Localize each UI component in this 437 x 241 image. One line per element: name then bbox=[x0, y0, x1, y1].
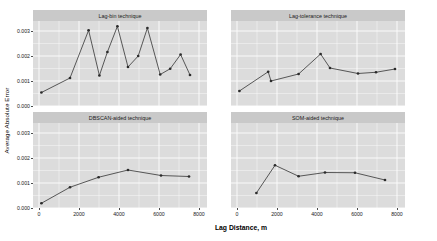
x-axis-tick-label: 8000 bbox=[385, 211, 409, 217]
x-axis-tick-mark bbox=[159, 208, 160, 210]
x-axis-tick-label: 6000 bbox=[147, 211, 171, 217]
x-axis-tick-label: 2000 bbox=[67, 211, 91, 217]
chart-figure: Average Absolute Error Lag Distance, m 0… bbox=[0, 0, 437, 241]
x-axis-tick-label: 0 bbox=[27, 211, 51, 217]
facet-plot-area bbox=[231, 123, 405, 208]
facet-plot-area bbox=[231, 21, 405, 106]
facet-strip-label: Lag-tolerance technique bbox=[231, 10, 405, 21]
facet-panel: Lag-bin technique bbox=[33, 10, 207, 106]
x-axis-title: Lag Distance, m bbox=[45, 224, 437, 236]
x-axis-tick-label: 2000 bbox=[265, 211, 289, 217]
x-axis-tick-mark bbox=[277, 208, 278, 210]
x-axis-tick-mark bbox=[39, 208, 40, 210]
facet-strip-label: DBSCAN-aided technique bbox=[33, 112, 207, 123]
facet-strip-label: Lag-bin technique bbox=[33, 10, 207, 21]
facet-strip-label: SOM-aided technique bbox=[231, 112, 405, 123]
facet-plot-area bbox=[33, 21, 207, 106]
x-axis-tick-label: 6000 bbox=[345, 211, 369, 217]
x-axis-tick-mark bbox=[237, 208, 238, 210]
x-axis-tick-label: 8000 bbox=[187, 211, 211, 217]
facet-panel: DBSCAN-aided technique bbox=[33, 112, 207, 208]
y-axis-title-label: Average Absolute Error bbox=[3, 87, 10, 153]
x-axis-tick-mark bbox=[357, 208, 358, 210]
x-axis-tick-mark bbox=[317, 208, 318, 210]
x-axis-tick-mark bbox=[119, 208, 120, 210]
y-axis-tick-label: 0.003 bbox=[4, 130, 30, 136]
x-axis-tick-mark bbox=[79, 208, 80, 210]
y-axis-tick-label: 0.001 bbox=[4, 180, 30, 186]
y-axis-tick-label: 0.001 bbox=[4, 78, 30, 84]
facet-plot-area bbox=[33, 123, 207, 208]
x-axis-tick-label: 4000 bbox=[107, 211, 131, 217]
x-axis-tick-mark bbox=[199, 208, 200, 210]
y-axis-tick-label: 0.000 bbox=[4, 103, 30, 109]
facet-panel: Lag-tolerance technique bbox=[231, 10, 405, 106]
y-axis-tick-label: 0.003 bbox=[4, 28, 30, 34]
y-axis-tick-mark bbox=[31, 208, 33, 209]
y-axis-tick-label: 0.002 bbox=[4, 53, 30, 59]
x-axis-tick-mark bbox=[397, 208, 398, 210]
y-axis-tick-label: 0.002 bbox=[4, 155, 30, 161]
facet-panel: SOM-aided technique bbox=[231, 112, 405, 208]
y-axis-tick-mark bbox=[31, 106, 33, 107]
x-axis-tick-label: 0 bbox=[225, 211, 249, 217]
x-axis-tick-label: 4000 bbox=[305, 211, 329, 217]
